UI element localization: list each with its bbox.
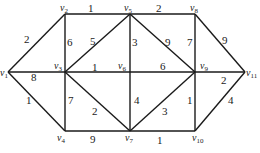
- node-label-v7: v7: [125, 132, 133, 145]
- edge-weight-label: 6: [160, 60, 166, 72]
- node-label-subscript: 2: [64, 7, 68, 15]
- node-label-subscript: 10: [196, 137, 204, 145]
- edge-v1-v4: [8, 72, 65, 131]
- edge-weight-label: 8: [31, 71, 37, 83]
- edge-v7-v9: [130, 72, 195, 131]
- node-label-v4: v4: [57, 132, 65, 145]
- edge-weight-label: 2: [221, 74, 227, 86]
- node-label-v9: v9: [200, 60, 208, 73]
- edge-weight-label: 2: [24, 33, 30, 45]
- edge-weight-label: 4: [134, 94, 140, 106]
- node-label-v5: v5: [124, 2, 132, 15]
- node-label-v2: v2: [60, 2, 68, 15]
- node-label-subscript: 3: [58, 65, 62, 73]
- edge-weight-label: 2: [92, 105, 98, 117]
- node-labels-group: v1v2v3v4v5v6v7v8v9v10v11: [0, 2, 258, 145]
- edge-weight-label: 3: [132, 36, 138, 48]
- node-label-subscript: 4: [61, 137, 65, 145]
- node-label-v1: v1: [0, 67, 8, 80]
- edge-weight-label: 4: [228, 94, 234, 106]
- edge-weight-label: 5: [90, 35, 96, 47]
- edge-weight-label: 6: [67, 36, 73, 48]
- edge-weight-label: 1: [92, 61, 98, 73]
- node-label-subscript: 5: [128, 7, 132, 15]
- edge-v10-v11: [195, 72, 245, 131]
- node-label-subscript: 8: [194, 7, 198, 15]
- node-label-v10: v10: [192, 132, 204, 145]
- node-label-subscript: 9: [204, 65, 208, 73]
- edge-weight-label: 1: [26, 94, 32, 106]
- edge-weight-label: 7: [187, 36, 193, 48]
- node-label-subscript: 11: [250, 72, 257, 80]
- edge-weight-label: 3: [162, 105, 168, 117]
- edge-weight-label: 2: [156, 2, 162, 14]
- edge-v3-v7: [65, 72, 130, 131]
- node-label-subscript: 1: [4, 72, 8, 80]
- weighted-graph-diagram: 2811651723297964931214 v1v2v3v4v5v6v7v8v…: [0, 0, 260, 153]
- edge-weight-label: 1: [88, 2, 94, 14]
- node-label-v11: v11: [246, 67, 258, 80]
- node-label-v3: v3: [54, 60, 62, 73]
- node-label-subscript: 7: [129, 137, 133, 145]
- edge-weight-label: 1: [187, 94, 193, 106]
- edge-weight-label: 9: [90, 133, 96, 145]
- edge-weight-label: 7: [68, 94, 74, 106]
- edge-weight-label: 9: [222, 34, 228, 46]
- edges-group: [8, 14, 245, 131]
- node-label-v8: v8: [190, 2, 198, 15]
- edge-weight-label: 1: [157, 134, 163, 146]
- node-label-subscript: 6: [122, 65, 126, 73]
- node-label-v6: v6: [118, 60, 126, 73]
- edge-weight-label: 9: [165, 36, 171, 48]
